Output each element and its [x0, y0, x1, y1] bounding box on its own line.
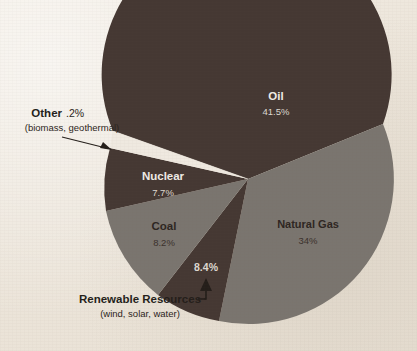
slice-label-oil: Oil: [268, 90, 283, 102]
callout-other[interactable]: Other .2% (biomass, geothermal): [25, 107, 120, 150]
slice-label-coal: Coal: [152, 220, 177, 232]
callout-renewable-title: Renewable Resources: [79, 293, 201, 305]
slice-value-renewable-resources: 8.4%: [194, 261, 219, 273]
callout-renewable-detail: (wind, solar, water): [100, 308, 180, 319]
slice-label-nuclear: Nuclear: [142, 170, 185, 182]
pie-slices: [102, 0, 394, 324]
callout-other-title: Other: [31, 107, 62, 119]
slice-value-natural-gas: 34%: [298, 235, 318, 246]
energy-sources-pie-chart: Oil 41.5% Natural Gas 34% Coal 8.2% Nucl…: [0, 0, 417, 351]
slice-label-natural-gas: Natural Gas: [277, 218, 339, 230]
slice-value-nuclear: 7.7%: [152, 187, 174, 198]
slice-value-oil: 41.5%: [263, 106, 290, 117]
callout-other-leader: [62, 137, 106, 148]
callout-other-detail: (biomass, geothermal): [25, 122, 120, 133]
slice-value-coal: 8.2%: [153, 237, 175, 248]
callout-other-arrowhead: [100, 142, 112, 150]
callout-other-value: .2%: [66, 107, 84, 119]
